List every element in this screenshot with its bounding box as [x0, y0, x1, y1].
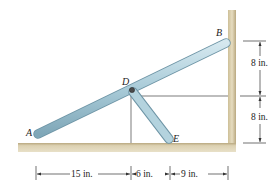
diagram-canvas: A B D E 15 in. 6 in. 9 in.	[0, 0, 278, 183]
dimension-6in: 6 in.	[136, 169, 153, 179]
label-E: E	[172, 133, 179, 144]
bar-DE	[133, 92, 169, 139]
dimension-15in: 15 in.	[71, 169, 93, 179]
label-A: A	[25, 127, 33, 138]
dimension-8in-lower: 8 in.	[251, 112, 268, 122]
dimension-9in: 9 in.	[181, 169, 198, 179]
floor	[18, 143, 236, 152]
pin-D-icon	[129, 87, 134, 92]
wall	[228, 10, 236, 152]
label-D: D	[121, 76, 130, 87]
vertical-dimension	[240, 41, 266, 143]
horizontal-dimension	[36, 166, 228, 180]
label-B: B	[216, 27, 222, 38]
dimension-8in-upper: 8 in.	[251, 58, 268, 68]
